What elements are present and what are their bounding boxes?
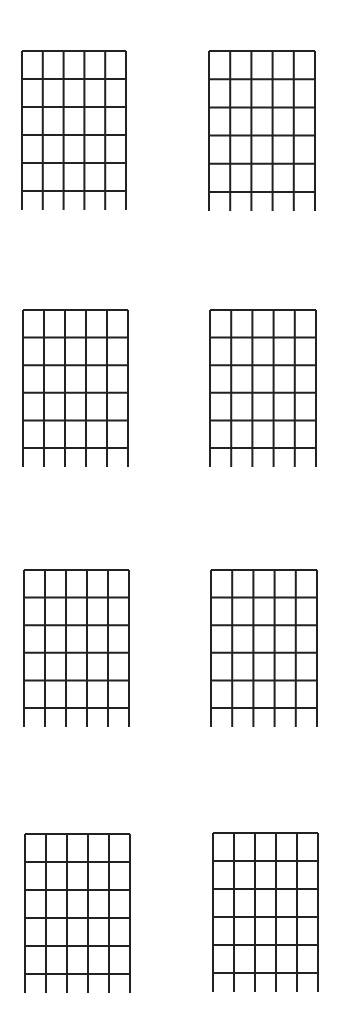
chord-diagram [210, 310, 316, 467]
chord-diagram [22, 51, 126, 210]
chord-diagram [23, 310, 128, 467]
chord-diagram [24, 570, 129, 727]
chord-grid [209, 51, 315, 211]
chord-grid [211, 570, 317, 727]
chord-grid [25, 834, 130, 993]
chord-grid [23, 310, 128, 467]
chord-diagram [209, 51, 315, 211]
chord-grid [22, 51, 126, 210]
chord-grid [24, 570, 129, 727]
chord-grid [213, 833, 318, 992]
chord-grid [210, 310, 316, 467]
chord-diagram [211, 570, 317, 727]
chord-diagram [25, 834, 130, 993]
chord-diagram [213, 833, 318, 992]
